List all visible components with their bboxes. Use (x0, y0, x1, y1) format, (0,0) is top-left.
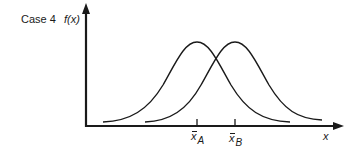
case-4-figure: Case 4 f(x) x xA xB (0, 0, 361, 151)
mean-a-symbol: x (191, 130, 197, 142)
curve-b (145, 42, 322, 122)
mean-b-symbol: x (229, 132, 235, 144)
y-axis-label: f(x) (64, 13, 80, 25)
mean-a-subscript: A (198, 135, 205, 146)
x-axis-arrow-icon (333, 122, 344, 130)
mean-b-subscript: B (236, 137, 243, 148)
case-label: Case 4 (21, 13, 56, 25)
mean-b-label: xB (229, 132, 242, 148)
curve-a (103, 42, 290, 122)
mean-a-label: xA (191, 130, 204, 146)
x-axis-label: x (323, 130, 329, 142)
y-axis-arrow-icon (82, 3, 90, 14)
